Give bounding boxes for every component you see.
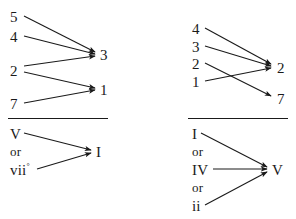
resolution-arrow bbox=[24, 36, 95, 54]
resolution-arrow bbox=[205, 172, 267, 205]
resolution-arrow bbox=[24, 16, 95, 52]
node-label: 3 bbox=[192, 39, 200, 55]
node-label: 3 bbox=[100, 47, 108, 63]
source-node-iv: IV bbox=[192, 163, 208, 178]
target-node-7: 7 bbox=[277, 92, 285, 107]
node-label: 2 bbox=[192, 56, 200, 72]
node-label: I bbox=[192, 126, 197, 142]
source-node-vii°: vii° bbox=[10, 163, 30, 178]
node-label: 1 bbox=[192, 74, 200, 90]
target-node-1: 1 bbox=[100, 83, 108, 98]
node-label: 7 bbox=[10, 96, 18, 112]
target-node-2: 2 bbox=[277, 61, 285, 76]
node-label: 4 bbox=[192, 21, 200, 37]
source-node-3: 3 bbox=[192, 40, 200, 55]
node-label: or bbox=[10, 144, 21, 159]
source-node-v: V bbox=[10, 127, 21, 142]
panel-divider-rule bbox=[8, 118, 108, 119]
resolution-arrow bbox=[24, 72, 95, 88]
node-label: 1 bbox=[100, 82, 108, 98]
source-node-ii: ii bbox=[192, 199, 201, 214]
figure-canvas: 542731432127Vorvii°IIorIVoriiV bbox=[0, 0, 296, 219]
node-label: 2 bbox=[10, 63, 18, 79]
node-label: 7 bbox=[277, 91, 285, 107]
source-node-or: or bbox=[10, 145, 21, 158]
node-label: V bbox=[10, 126, 21, 142]
node-label: 5 bbox=[10, 9, 18, 25]
source-node-5: 5 bbox=[10, 10, 18, 25]
resolution-arrow bbox=[37, 153, 91, 169]
diminished-symbol: ° bbox=[26, 162, 29, 171]
source-node-2: 2 bbox=[10, 64, 18, 79]
target-node-i: I bbox=[96, 145, 101, 160]
resolution-arrow bbox=[205, 46, 271, 66]
source-node-i: I bbox=[192, 127, 197, 142]
source-node-4: 4 bbox=[10, 30, 18, 45]
source-node-2: 2 bbox=[192, 57, 200, 72]
resolution-arrow bbox=[205, 28, 271, 64]
resolution-arrow bbox=[24, 90, 95, 103]
source-node-4: 4 bbox=[192, 22, 200, 37]
node-label: V bbox=[272, 162, 283, 178]
node-label: 4 bbox=[10, 29, 18, 45]
source-node-or: or bbox=[192, 145, 203, 158]
node-label: 2 bbox=[277, 60, 285, 76]
source-node-or: or bbox=[192, 181, 203, 194]
node-label: or bbox=[192, 144, 203, 159]
source-node-7: 7 bbox=[10, 97, 18, 112]
panel-divider-rule bbox=[188, 118, 288, 119]
node-label: vii bbox=[10, 162, 26, 178]
resolution-arrow bbox=[205, 68, 271, 81]
resolution-arrow bbox=[201, 133, 267, 167]
node-label: ii bbox=[192, 198, 201, 214]
node-label: or bbox=[192, 180, 203, 195]
resolution-arrow bbox=[24, 56, 95, 66]
node-label: IV bbox=[192, 162, 208, 178]
target-node-3: 3 bbox=[100, 48, 108, 63]
arrow-layer bbox=[0, 0, 296, 219]
source-node-1: 1 bbox=[192, 75, 200, 90]
resolution-arrow bbox=[205, 63, 271, 96]
resolution-arrow bbox=[24, 133, 91, 150]
node-label: I bbox=[96, 144, 101, 160]
target-node-v: V bbox=[272, 163, 283, 178]
